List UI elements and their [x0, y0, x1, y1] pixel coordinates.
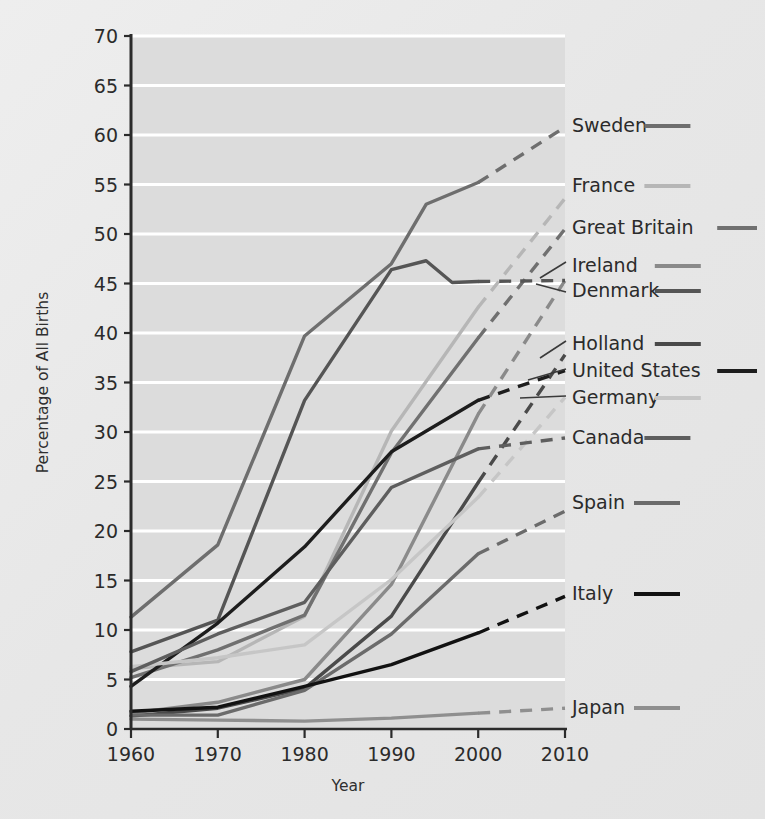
y-tick-label-15: 15: [94, 570, 118, 592]
x-tick-label-1980: 1980: [280, 743, 328, 765]
y-tick-label-45: 45: [94, 273, 118, 295]
y-tick-label-5: 5: [106, 669, 118, 691]
legend-entry-italy[interactable]: Italy: [572, 582, 680, 604]
legend-label: United States: [572, 359, 701, 381]
legend-label: Holland: [572, 332, 644, 354]
legend-entry-france[interactable]: France: [572, 174, 690, 196]
y-tick-label-20: 20: [94, 520, 118, 542]
legend-entry-united-states[interactable]: United States: [572, 359, 757, 381]
x-tick-label-2000: 2000: [454, 743, 502, 765]
x-tick-label-2010: 2010: [541, 743, 589, 765]
legend-label: Great Britain: [572, 216, 693, 238]
y-tick-label-25: 25: [94, 471, 118, 493]
legend-entry-spain[interactable]: Spain: [572, 491, 680, 513]
legend-label: Sweden: [572, 114, 647, 136]
legend-entry-sweden[interactable]: Sweden: [572, 114, 690, 136]
y-tick-label-40: 40: [94, 322, 118, 344]
y-tick-label-10: 10: [94, 619, 118, 641]
y-tick-label-65: 65: [94, 75, 118, 97]
y-tick-label-70: 70: [94, 25, 118, 47]
y-tick-label-35: 35: [94, 372, 118, 394]
y-tick-label-0: 0: [106, 718, 118, 740]
y-tick-label-30: 30: [94, 421, 118, 443]
y-tick-label-50: 50: [94, 223, 118, 245]
x-axis-title: Year: [331, 777, 365, 795]
x-tick-label-1960: 1960: [107, 743, 155, 765]
legend-entry-germany[interactable]: Germany: [572, 386, 701, 408]
legend-entry-canada[interactable]: Canada: [572, 426, 690, 448]
legend-entry-ireland[interactable]: Ireland: [572, 254, 701, 276]
legend-label: Denmark: [572, 279, 659, 301]
legend-label: Italy: [572, 582, 613, 604]
x-tick-label-1990: 1990: [367, 743, 415, 765]
x-tick-label-1970: 1970: [194, 743, 242, 765]
chart-figure: 0510152025303540455055606570196019701980…: [0, 0, 765, 819]
legend-label: France: [572, 174, 635, 196]
y-axis-title: Percentage of All Births: [34, 292, 52, 473]
legend-label: Canada: [572, 426, 644, 448]
legend-label: Germany: [572, 386, 659, 408]
y-tick-label-60: 60: [94, 124, 118, 146]
legend-label: Spain: [572, 491, 625, 513]
y-tick-label-55: 55: [94, 174, 118, 196]
legend-entry-japan[interactable]: Japan: [571, 696, 680, 718]
multi-series-line-chart: 0510152025303540455055606570196019701980…: [0, 0, 765, 819]
legend-entry-great-britain[interactable]: Great Britain: [572, 216, 757, 238]
legend-entry-denmark[interactable]: Denmark: [572, 279, 701, 301]
legend-label: Ireland: [572, 254, 638, 276]
legend-entry-holland[interactable]: Holland: [572, 332, 701, 354]
legend-label: Japan: [571, 696, 625, 718]
